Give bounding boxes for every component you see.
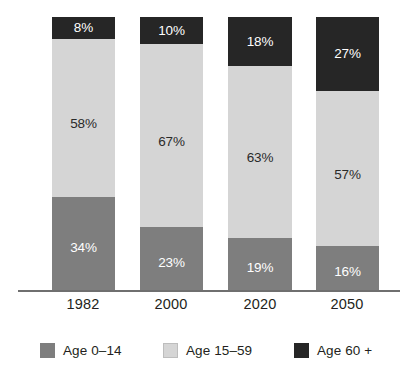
segment-age-0-14[interactable]: 34% bbox=[52, 197, 115, 290]
segment-label: 34% bbox=[70, 241, 97, 255]
segment-age-0-14[interactable]: 16% bbox=[316, 246, 379, 290]
segment-age-60-plus[interactable]: 8% bbox=[52, 17, 115, 39]
legend-swatch-icon bbox=[294, 343, 309, 358]
plot-area: 8% 58% 34% 10% 67% 23% 18% bbox=[0, 0, 415, 292]
segment-age-0-14[interactable]: 19% bbox=[228, 238, 292, 290]
segment-age-15-59[interactable]: 63% bbox=[228, 66, 292, 238]
legend-label: Age 60 + bbox=[317, 343, 372, 358]
bar-2050[interactable]: 27% 57% 16% bbox=[316, 17, 379, 290]
segment-label: 57% bbox=[334, 168, 361, 182]
segment-age-15-59[interactable]: 67% bbox=[140, 44, 203, 227]
x-tick-2050: 2050 bbox=[307, 296, 387, 312]
segment-age-0-14[interactable]: 23% bbox=[140, 227, 203, 290]
x-tick-1982: 1982 bbox=[43, 296, 123, 312]
chart-legend: Age 0–14 Age 15–59 Age 60 + bbox=[0, 340, 415, 364]
legend-swatch-icon bbox=[163, 343, 178, 358]
segment-label: 27% bbox=[334, 47, 361, 61]
segment-age-60-plus[interactable]: 10% bbox=[140, 17, 203, 44]
segment-label: 10% bbox=[158, 24, 185, 38]
segment-label: 67% bbox=[158, 135, 185, 149]
segment-age-60-plus[interactable]: 27% bbox=[316, 17, 379, 91]
segment-age-15-59[interactable]: 57% bbox=[316, 91, 379, 247]
segment-label: 18% bbox=[247, 35, 274, 49]
legend-swatch-icon bbox=[40, 343, 55, 358]
segment-label: 8% bbox=[74, 21, 93, 35]
segment-label: 23% bbox=[158, 256, 185, 270]
segment-age-60-plus[interactable]: 18% bbox=[228, 17, 292, 66]
segment-label: 63% bbox=[247, 151, 274, 165]
segment-age-15-59[interactable]: 58% bbox=[52, 39, 115, 197]
legend-label: Age 0–14 bbox=[63, 343, 122, 358]
bar-2000[interactable]: 10% 67% 23% bbox=[140, 17, 203, 290]
x-tick-2000: 2000 bbox=[131, 296, 211, 312]
bar-2020[interactable]: 18% 63% 19% bbox=[228, 17, 292, 290]
legend-item-age-0-14[interactable]: Age 0–14 bbox=[40, 340, 122, 360]
segment-label: 19% bbox=[247, 261, 274, 275]
segment-label: 16% bbox=[334, 265, 361, 279]
stacked-bar-chart: 8% 58% 34% 10% 67% 23% 18% bbox=[0, 0, 415, 378]
legend-item-age-60-plus[interactable]: Age 60 + bbox=[294, 340, 372, 360]
x-tick-2020: 2020 bbox=[220, 296, 300, 312]
legend-label: Age 15–59 bbox=[186, 343, 252, 358]
legend-item-age-15-59[interactable]: Age 15–59 bbox=[163, 340, 252, 360]
bar-1982[interactable]: 8% 58% 34% bbox=[52, 17, 115, 290]
x-axis-line bbox=[18, 290, 400, 292]
segment-label: 58% bbox=[70, 117, 97, 131]
